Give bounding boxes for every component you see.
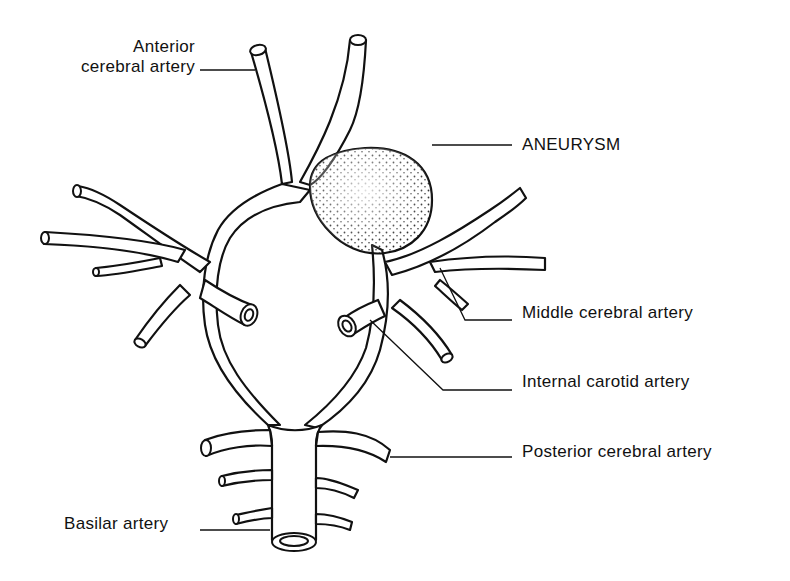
- anterior-cerebral-artery-left: [249, 43, 292, 184]
- basilar-artery-trunk: [268, 425, 322, 551]
- label-aneurysm: ANEURYSM: [522, 135, 620, 155]
- label-anterior-line1: Anterior: [90, 37, 195, 57]
- label-middle-cerebral-artery: Middle cerebral artery: [522, 303, 693, 323]
- posterior-cerebral-artery-left: [201, 430, 272, 456]
- label-anterior-line2: cerebral artery: [40, 57, 195, 77]
- label-internal-carotid-artery: Internal carotid artery: [522, 372, 690, 392]
- label-basilar-artery: Basilar artery: [64, 514, 168, 534]
- posterior-cerebral-artery-right: [316, 431, 390, 462]
- diagram-canvas: Anterior cerebral artery ANEURYSM Middle…: [0, 0, 790, 581]
- label-posterior-cerebral-artery: Posterior cerebral artery: [522, 442, 712, 462]
- middle-cerebral-artery-left: [41, 185, 210, 349]
- aneurysm-sac: [310, 148, 432, 254]
- circle-of-willis-illustration: [0, 0, 790, 581]
